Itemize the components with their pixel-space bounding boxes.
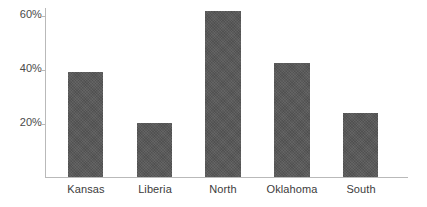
bar-kansas[interactable] [68, 72, 103, 177]
x-axis-label-kansas: Kansas [55, 183, 117, 195]
bars-layer [0, 0, 427, 207]
bar-oklahoma[interactable] [274, 63, 310, 177]
bar-south[interactable] [343, 113, 378, 177]
x-axis-label-liberia: Liberia [124, 183, 186, 195]
x-axis-label-north: North [192, 183, 254, 195]
bar-chart: 60% 40% 20% Kansas Liberia North Oklahom… [0, 0, 427, 207]
bar-liberia[interactable] [137, 123, 172, 177]
bar-north[interactable] [205, 11, 241, 177]
x-axis-label-south: South [330, 183, 392, 195]
x-axis-label-oklahoma: Oklahoma [257, 183, 327, 195]
